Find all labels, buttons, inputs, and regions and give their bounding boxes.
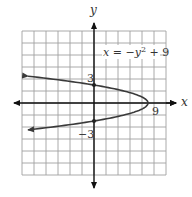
x-axis-label: x — [181, 95, 188, 109]
equation-label: x = −y2 + 9 — [103, 45, 169, 59]
y-axis-label: y — [89, 3, 97, 17]
tick-label-yneg3: −3 — [78, 128, 94, 141]
tick-label-x9: 9 — [152, 105, 159, 118]
parabola-chart: y x 3 −3 9 x = −y2 + 9 — [0, 0, 192, 197]
tick-label-y3: 3 — [87, 72, 94, 85]
marked-point — [92, 119, 96, 123]
